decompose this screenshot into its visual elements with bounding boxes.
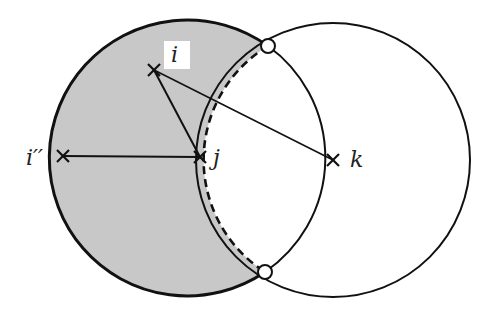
- intersection-marker-top: [261, 39, 275, 53]
- label-i-double-prime: i′′: [26, 145, 43, 170]
- intersection-marker-bottom: [258, 265, 272, 279]
- label-k: k: [350, 147, 363, 172]
- cross-marker-k: [327, 154, 339, 166]
- label-j: j: [208, 145, 220, 170]
- segment-i2-j: [63, 156, 200, 157]
- diagram-canvas: i i′′ j k: [0, 0, 499, 313]
- left-circle-inner-arc: [265, 46, 325, 272]
- label-i: i: [171, 42, 178, 67]
